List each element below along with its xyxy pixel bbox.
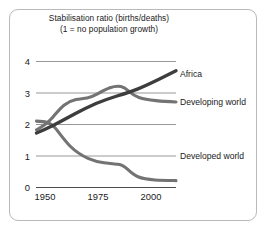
x-tick-2000: 2000: [141, 191, 162, 202]
y-tick-3: 3: [25, 88, 30, 99]
x-axis-tick-labels: 1950 1975 2000: [35, 191, 162, 202]
x-tick-1950: 1950: [35, 191, 56, 202]
line-developed-world: [37, 121, 177, 181]
y-tick-2: 2: [25, 119, 30, 130]
series-lines: [37, 71, 177, 181]
stabilisation-ratio-line-chart: 4 3 2 1 0 1950 1975 2000 Africa Developi…: [0, 0, 268, 232]
y-tick-1: 1: [25, 151, 30, 162]
y-tick-0: 0: [25, 182, 30, 193]
y-tick-4: 4: [25, 56, 30, 67]
series-label-africa: Africa: [180, 69, 202, 79]
series-label-developing-world: Developing world: [180, 97, 246, 107]
x-tick-1975: 1975: [88, 191, 109, 202]
series-labels: Africa Developing world Developed world: [180, 69, 246, 161]
series-label-developed-world: Developed world: [180, 151, 244, 161]
y-axis-tick-labels: 4 3 2 1 0: [25, 56, 30, 193]
